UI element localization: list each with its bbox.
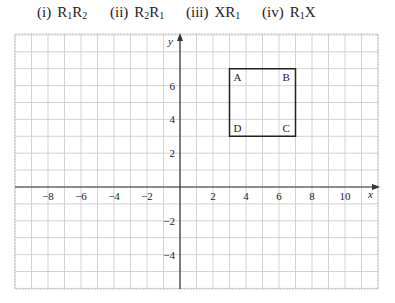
x-tick-label: 2 [210,190,216,202]
x-tick-label: 8 [309,190,315,202]
vertex-label-a: A [234,71,242,83]
x-tick-label: −6 [75,190,87,202]
x-tick-label: −4 [108,190,120,202]
vertex-label-c: C [283,122,290,134]
y-tick-label: 4 [170,113,176,125]
x-axis-arrow-icon [372,184,380,190]
x-tick-label: 10 [340,190,352,202]
x-axis-label: x [367,188,373,200]
x-tick-label: −8 [42,190,54,202]
x-tick-label: 4 [243,190,249,202]
y-tick-label: −2 [163,215,175,227]
coordinate-grid: xy−8−6−4−2246810642−2−4ABCD [0,0,395,303]
x-tick-label: 6 [276,190,282,202]
vertex-label-b: B [283,71,290,83]
x-tick-label: −2 [141,190,153,202]
y-tick-label: −4 [163,249,175,261]
y-tick-label: 2 [170,147,176,159]
vertex-label-d: D [234,122,242,134]
y-tick-label: 6 [170,80,176,92]
y-axis-label: y [167,35,173,47]
